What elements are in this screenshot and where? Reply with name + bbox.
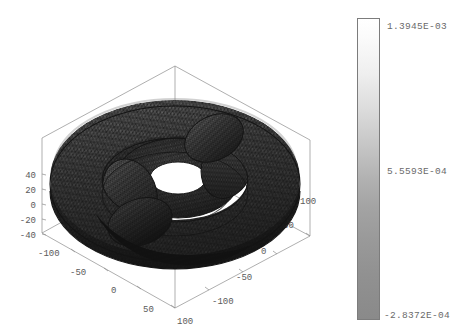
- figure-title: Eigenmode deformation of interlinked tor…: [55, 0, 355, 2]
- y-tick-label: -100: [212, 297, 234, 307]
- x-tick-label: 0: [111, 286, 116, 296]
- colorbar-gradient-swatch: [357, 18, 380, 320]
- plot-3d-canvas: 40 20 0 -20 -40 -100 -50 0 50 100 100 50…: [0, 8, 350, 334]
- z-tick-label: 20: [25, 186, 36, 196]
- torus-mesh-surface: [50, 99, 300, 269]
- z-tick-label: -20: [20, 216, 36, 226]
- x-tick-label: -100: [38, 249, 60, 259]
- z-tick-label: 0: [31, 201, 36, 211]
- z-tick-label: -40: [20, 231, 36, 241]
- x-tick-label: 50: [143, 305, 154, 315]
- colorbar-mid-label: 5.5593E-04: [387, 166, 447, 177]
- x-tick-label: 100: [177, 317, 193, 327]
- colorbar-max-label: 1.3945E-03: [387, 21, 447, 32]
- y-tick-label: 100: [300, 197, 316, 207]
- x-tick-label: -50: [70, 268, 86, 278]
- z-tick-label: 40: [25, 171, 36, 181]
- colorbar: 1.3945E-03 5.5593E-04 -2.8372E-04: [357, 18, 462, 323]
- y-tick-label: -50: [236, 273, 252, 283]
- colorbar-min-label: -2.8372E-04: [384, 310, 450, 321]
- y-tick-label: 0: [261, 247, 266, 257]
